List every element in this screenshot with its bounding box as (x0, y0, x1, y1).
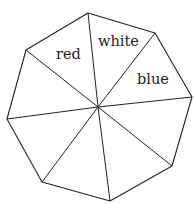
center-point (97, 106, 100, 109)
sector-divider-3 (98, 107, 172, 166)
sector-label-red: red (56, 46, 81, 62)
sector-divider-2 (98, 97, 192, 107)
sector-divider-4 (98, 107, 110, 201)
sector-divider-0 (88, 13, 98, 107)
sector-label-white: white (98, 33, 139, 49)
octagon-diagram: red white blue (0, 0, 195, 204)
sector-divider-5 (42, 107, 98, 182)
sector-divider-6 (7, 107, 98, 119)
sector-label-blue: blue (137, 71, 169, 87)
